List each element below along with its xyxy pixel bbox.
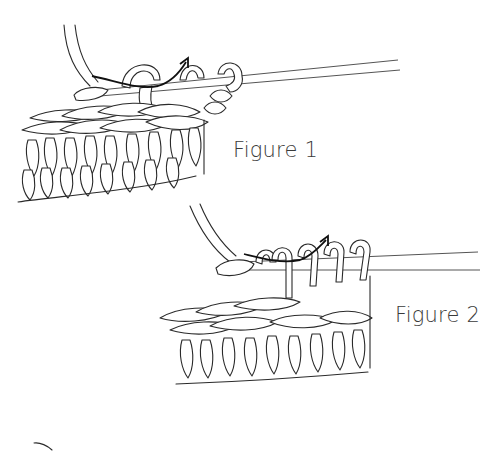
- figure-1-label: Figure 1: [233, 138, 318, 162]
- illustration-canvas: [0, 0, 484, 453]
- figure-2-drawing: [160, 204, 480, 384]
- figure-2-label: Figure 2: [395, 303, 480, 327]
- stray-mark: [34, 443, 52, 450]
- figure-1-drawing: [18, 25, 400, 202]
